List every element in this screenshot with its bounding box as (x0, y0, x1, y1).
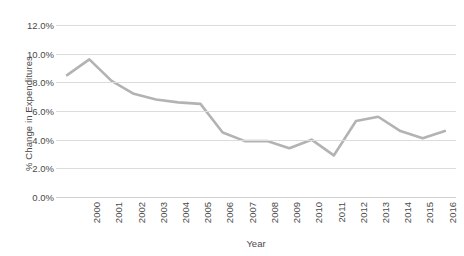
x-tick-label: 2007 (247, 202, 258, 242)
x-tick-label: 2009 (291, 202, 302, 242)
x-tick-label: 2004 (180, 202, 191, 242)
line-chart: % Change in Expenditures 0.0%2.0%4.0%6.0… (0, 0, 464, 256)
x-tick-label: 2003 (158, 202, 169, 242)
x-tick-label: 2005 (202, 202, 213, 242)
x-tick-label: 2006 (224, 202, 235, 242)
x-tick-label: 2014 (402, 202, 413, 242)
x-tick-label: 2015 (424, 202, 435, 242)
x-tick-label: 2010 (313, 202, 324, 242)
x-tick-label: 2000 (91, 202, 102, 242)
x-tick-label: 2016 (447, 202, 458, 242)
x-tick-label: 2001 (113, 202, 124, 242)
x-axis-title: Year (56, 238, 456, 249)
x-tick-label: 2012 (358, 202, 369, 242)
x-tick-label: 2011 (336, 202, 347, 242)
x-tick-label: 2008 (269, 202, 280, 242)
x-axis-tick-labels: 2000200120022003200420052006200720082009… (0, 0, 464, 256)
x-tick-label: 2002 (136, 202, 147, 242)
x-tick-label: 2013 (380, 202, 391, 242)
